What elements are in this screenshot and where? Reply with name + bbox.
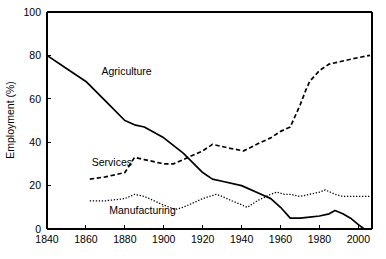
y-tick-label: 20	[29, 179, 41, 191]
series-label-services: Services	[92, 156, 132, 168]
x-tick-label: 1900	[152, 233, 176, 245]
y-tick-label: 100	[23, 6, 41, 18]
x-tick-label: 1920	[191, 233, 215, 245]
chart-figure: 0204060801001840186018801900192019401960…	[0, 0, 386, 259]
y-axis-title: Employment (%)	[4, 81, 16, 159]
y-tick-label: 80	[29, 49, 41, 61]
chart-series-labels: AgricultureServicesManufacturing	[92, 65, 176, 216]
series-label-manufacturing: Manufacturing	[109, 204, 176, 216]
chart-series	[47, 55, 370, 229]
x-tick-label: 1880	[113, 233, 137, 245]
series-line-agriculture	[47, 55, 364, 229]
chart-tick-labels: 0204060801001840186018801900192019401960…	[23, 6, 370, 245]
x-tick-label: 2000	[347, 233, 371, 245]
y-tick-label: 60	[29, 93, 41, 105]
x-tick-label: 1980	[308, 233, 332, 245]
x-tick-label: 1940	[230, 233, 254, 245]
chart-tick-marks	[47, 12, 358, 229]
y-tick-label: 40	[29, 136, 41, 148]
x-tick-label: 1860	[74, 233, 98, 245]
employment-line-chart: 0204060801001840186018801900192019401960…	[0, 0, 386, 259]
x-tick-label: 1840	[35, 233, 59, 245]
series-label-agriculture: Agriculture	[101, 65, 151, 77]
x-tick-label: 1960	[269, 233, 293, 245]
